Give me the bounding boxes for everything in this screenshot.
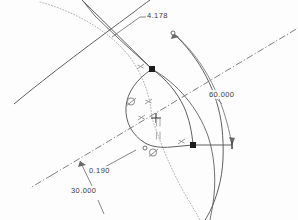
coincident-constraint-icon[interactable] <box>136 112 147 123</box>
sketch-point-arc-bottom[interactable] <box>143 146 147 150</box>
dimension-label-4178[interactable]: 4.178 <box>146 11 169 20</box>
coincident-constraint-icon[interactable] <box>176 136 187 147</box>
sketch-canvas[interactable] <box>0 0 298 220</box>
centerline-main-diagonal <box>52 28 298 175</box>
centerlines <box>30 28 298 188</box>
vertical-constraint-icon[interactable] <box>153 130 164 141</box>
vertical-constraint-icon[interactable] <box>153 117 164 128</box>
dimension-label-30000[interactable]: 30.000 <box>70 186 97 195</box>
sketch-point-top[interactable] <box>149 66 155 72</box>
cad-sketch-viewport[interactable]: 4.178 60.000 0.190 30.000 <box>0 0 298 220</box>
dimension-label-60000[interactable]: 60.000 <box>208 90 235 99</box>
profile-arc-left-long <box>14 0 150 104</box>
dimension-label-0190[interactable]: 0.190 <box>88 166 111 175</box>
construction-geometry <box>40 2 200 220</box>
tangent-constraint-icon[interactable] <box>126 96 137 107</box>
profile-arc-outer-right <box>173 33 223 220</box>
centerline-main-diagonal-tail <box>30 175 52 188</box>
sketch-point-arc-end[interactable] <box>171 31 175 35</box>
dimension-30000-arrow <box>78 161 86 167</box>
dimension-30000-leader-tail <box>98 200 104 214</box>
sketch-point-right[interactable] <box>190 142 196 148</box>
tangent-constraint-icon[interactable] <box>148 147 159 158</box>
profile-line-upper-left <box>82 0 152 69</box>
dimension-4178-leader <box>112 17 140 37</box>
coincident-constraint-icon[interactable] <box>143 96 154 107</box>
profile-geometry <box>14 0 232 220</box>
dimension-60000-arc <box>173 33 232 145</box>
coincident-constraint-icon[interactable] <box>135 61 146 72</box>
